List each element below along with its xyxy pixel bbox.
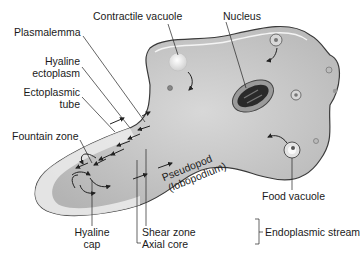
- food-vacuole: [284, 142, 300, 158]
- label-contractile-vacuole: Contractile vacuole: [93, 10, 182, 22]
- granule: [168, 86, 173, 91]
- label-endoplasmic-stream: Endoplasmic stream: [265, 226, 360, 238]
- label-shear-zone: Shear zone: [142, 226, 196, 238]
- contractile-vacuole: [169, 53, 187, 71]
- label-hyaline-ectoplasm: Hyaline ectoplasm: [20, 55, 80, 79]
- label-axial-core: Axial core: [142, 238, 188, 250]
- label-ectoplasmic-tube: Ectoplasmic tube: [14, 86, 80, 110]
- label-nucleus: Nucleus: [223, 10, 261, 22]
- amoeba-diagram: Contractile vacuole Nucleus Plasmalemma …: [0, 0, 361, 259]
- label-food-vacuole: Food vacuole: [262, 190, 325, 202]
- label-plasmalemma: Plasmalemma: [14, 26, 81, 38]
- label-hyaline-cap: Hyaline cap: [70, 226, 114, 250]
- label-fountain-zone: Fountain zone: [12, 130, 79, 142]
